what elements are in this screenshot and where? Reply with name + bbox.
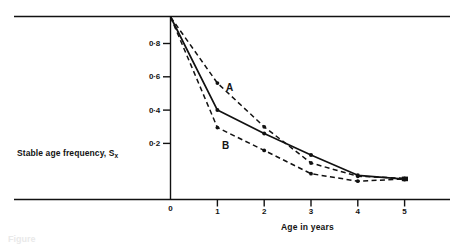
series-observed-markers [215, 108, 406, 181]
series-b-line [171, 17, 405, 181]
x-tick-label-2: 2 [259, 207, 269, 216]
y-tick-label-0-2: 0·2 [140, 139, 160, 148]
y-tick-label-0-8: 0·8 [140, 39, 160, 48]
y-tick-label-0-4: 0·4 [140, 106, 160, 115]
series-a-markers [216, 81, 407, 180]
x-axis-title: Age in years [281, 222, 334, 232]
figure-caption-partial: Figure [8, 234, 36, 244]
x-tick-label-4: 4 [353, 207, 363, 216]
x-tick-label-5: 5 [400, 207, 410, 216]
series-label-a: A [226, 82, 233, 93]
convergence-marker [402, 177, 408, 182]
y-tick-label-0-6: 0·6 [140, 72, 160, 81]
x-tick-marks [217, 200, 404, 207]
x-tick-label-0: 0 [166, 204, 176, 213]
x-tick-label-1: 1 [212, 207, 222, 216]
y-axis-title-subscript: x [115, 152, 119, 159]
y-axis-title: Stable age frequency, Sx [17, 148, 118, 158]
series-label-b: B [222, 140, 229, 151]
y-tick-marks [163, 44, 171, 144]
series-a-line [171, 17, 405, 178]
x-tick-label-3: 3 [306, 207, 316, 216]
y-axis-title-main: Stable age frequency, S [17, 148, 115, 158]
